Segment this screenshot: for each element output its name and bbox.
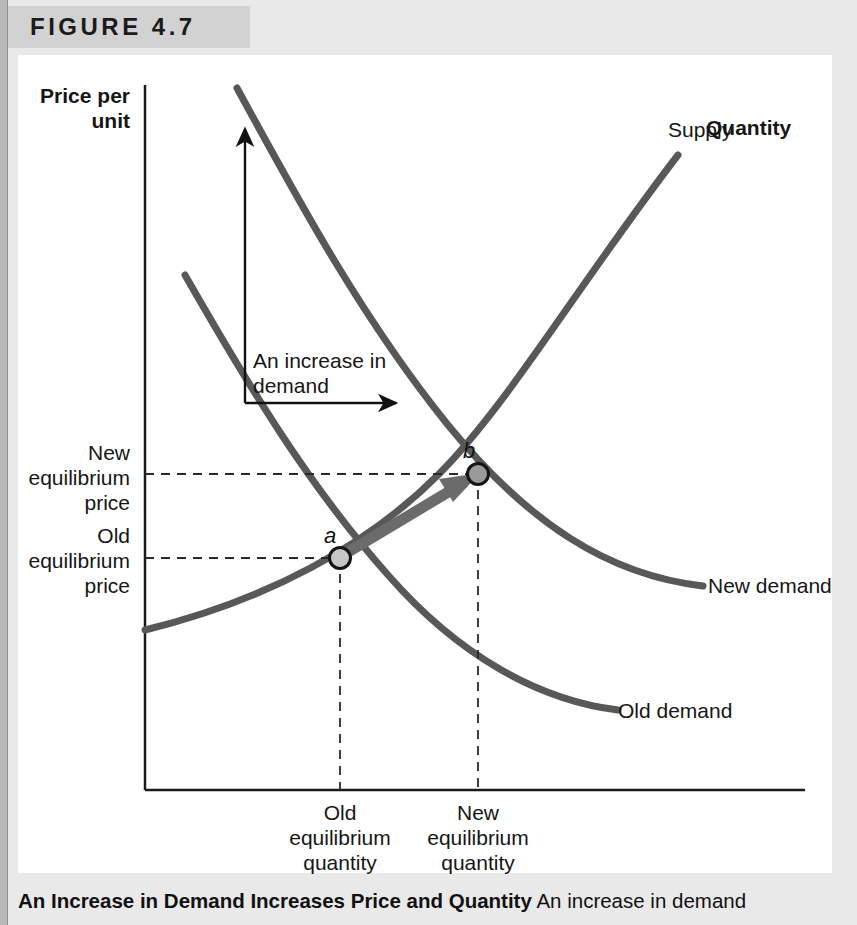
supply-curve-label: Supply <box>668 117 732 142</box>
supply-curve <box>145 155 678 630</box>
old-equilibrium-price-label: Old equilibrium price <box>18 523 130 598</box>
old-demand-curve <box>185 275 618 710</box>
point-a-marker <box>330 548 351 569</box>
old-demand-curve-label: Old demand <box>618 698 732 723</box>
supply-demand-diagram <box>18 55 832 873</box>
point-a-label: a <box>324 523 336 549</box>
chart-panel: Price per unit Quantity New equilibrium … <box>18 55 832 873</box>
old-equilibrium-quantity-label: Old equilibrium quantity <box>270 800 410 875</box>
new-equilibrium-price-label: New equilibrium price <box>18 440 130 515</box>
increase-in-demand-label: An increase in demand <box>253 348 386 398</box>
figure-caption: An Increase in Demand Increases Price an… <box>18 888 848 914</box>
new-demand-curve <box>237 88 703 586</box>
guide-lines <box>145 474 478 790</box>
figure-page: FIGURE 4.7 <box>0 0 857 925</box>
figure-header: FIGURE 4.7 <box>8 6 250 48</box>
new-equilibrium-quantity-label: New equilibrium quantity <box>408 800 548 875</box>
page-left-rule <box>0 0 8 925</box>
figure-number-label: FIGURE 4.7 <box>8 13 196 41</box>
point-b-marker <box>468 464 489 485</box>
y-axis-label: Price per unit <box>18 83 130 133</box>
point-b-label: b <box>463 438 475 464</box>
equilibrium-shift-arrow <box>348 473 480 552</box>
caption-rest: An increase in demand <box>532 889 746 912</box>
new-demand-curve-label: New demand <box>708 573 832 598</box>
caption-lead: An Increase in Demand Increases Price an… <box>18 889 532 912</box>
